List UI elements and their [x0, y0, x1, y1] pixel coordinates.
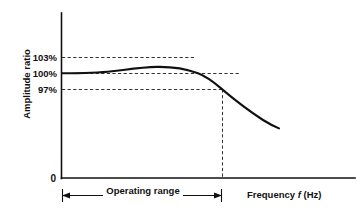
chart-figure: 103% 100% 97% 0 Amplitude ratio Frequenc…	[0, 0, 361, 214]
y-axis-title: Amplitude ratio	[21, 49, 32, 119]
x-axis-title-suffix: (Hz)	[301, 189, 322, 200]
ytick-label-103: 103%	[33, 52, 58, 63]
operating-range-label: Operating range	[106, 185, 179, 196]
ytick-label-100: 100%	[33, 68, 58, 79]
x-axis-title-prefix: Frequency	[247, 189, 298, 200]
origin-label: 0	[50, 173, 56, 184]
ytick-label-97: 97%	[38, 84, 58, 95]
amplitude-ratio-frequency-chart: 103% 100% 97% 0 Amplitude ratio Frequenc…	[0, 0, 361, 214]
x-axis-title: Frequency f (Hz)	[247, 189, 321, 200]
